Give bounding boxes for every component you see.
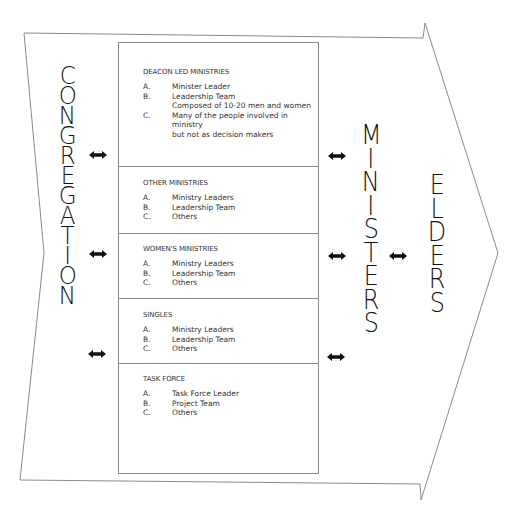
list-item: A. Task Force Leader: [143, 389, 318, 399]
list-item-continuation: but not as decision makers: [143, 130, 318, 140]
section-singles: SINGLES A. Ministry Leaders B. Leadershi…: [119, 298, 318, 363]
list-item: B. Leadership Team: [143, 92, 318, 102]
list-item-continuation: Composed of 10-20 men and women: [143, 101, 318, 111]
ministries-box: DEACON LED MINISTRIES A. Minister Leader…: [118, 42, 319, 474]
double-arrow-icon: [89, 151, 107, 159]
list-item: C. Others: [143, 344, 318, 354]
list-item: C. Many of the people involved in minist…: [143, 111, 318, 130]
list-item: B. Leadership Team: [143, 335, 318, 345]
list-item: B. Leadership Team: [143, 203, 318, 213]
congregation-label: C O N G R E G A T I O N: [58, 66, 78, 306]
list-item: C. Others: [143, 408, 318, 418]
ministers-label: M I N I S T E R S: [360, 124, 382, 336]
double-arrow-icon: [389, 252, 407, 260]
section-other-ministries: OTHER MINISTRIES A. Ministry Leaders B. …: [119, 166, 318, 233]
double-arrow-icon: [328, 252, 346, 260]
section-title: TASK FORCE: [143, 375, 318, 383]
list-item: A. Ministry Leaders: [143, 325, 318, 335]
double-arrow-icon: [328, 152, 346, 160]
list-item: A. Ministry Leaders: [143, 259, 318, 269]
section-title: WOMEN'S MINISTRIES: [143, 245, 318, 253]
double-arrow-icon: [327, 353, 345, 361]
list-item: C. Others: [143, 278, 318, 288]
list-item: B. Project Team: [143, 399, 318, 409]
section-deacon-led-ministries: DEACON LED MINISTRIES A. Minister Leader…: [119, 43, 318, 166]
section-task-force: TASK FORCE A. Task Force Leader B. Proje…: [119, 363, 318, 475]
section-womens-ministries: WOMEN'S MINISTRIES A. Ministry Leaders B…: [119, 233, 318, 298]
double-arrow-icon: [88, 350, 106, 358]
elders-label: E L D E R S: [427, 174, 447, 315]
list-item: C. Others: [143, 212, 318, 222]
double-arrow-icon: [89, 250, 107, 258]
section-title: DEACON LED MINISTRIES: [143, 68, 318, 76]
section-title: OTHER MINISTRIES: [143, 179, 318, 187]
list-item: A. Ministry Leaders: [143, 193, 318, 203]
section-title: SINGLES: [143, 311, 318, 319]
list-item: A. Minister Leader: [143, 82, 318, 92]
list-item: B. Leadership Team: [143, 269, 318, 279]
